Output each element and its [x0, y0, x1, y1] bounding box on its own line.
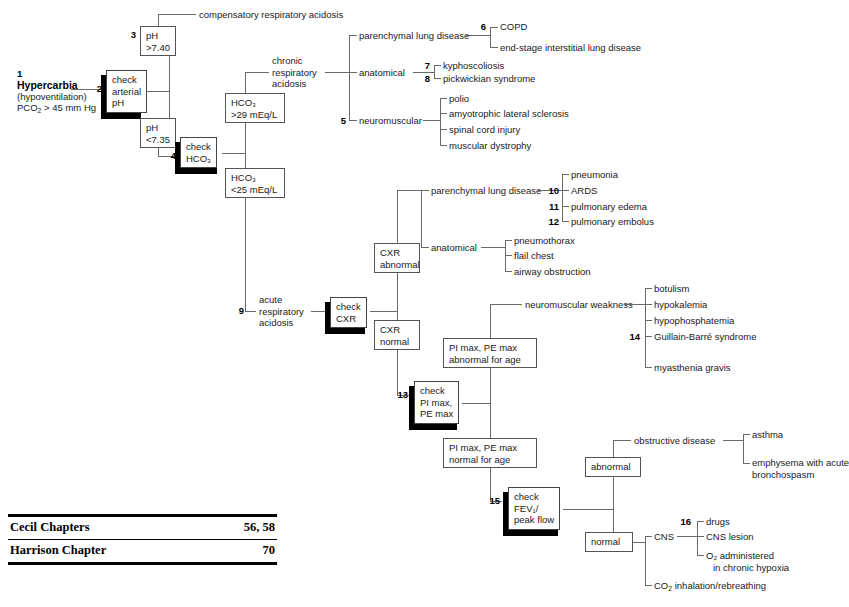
leaf-line: bronchospasm [752, 469, 849, 481]
leaf-botulism: botulism [654, 283, 689, 295]
table-row: Cecil Chapters 56, 58 [8, 517, 277, 539]
connector [349, 35, 350, 120]
action-face[interactable]: check HCO₃ [180, 137, 217, 168]
connector [434, 65, 435, 79]
leaf-pneumothorax: pneumothorax [514, 235, 575, 247]
connector [490, 47, 498, 48]
table-row-label: Cecil Chapters [10, 520, 90, 535]
action-check-arterial-ph[interactable]: check arterial pH [106, 70, 146, 114]
connector [440, 98, 441, 145]
table-row-label: Harrison Chapter [10, 543, 106, 558]
leaf-number-7: 7 [418, 60, 430, 71]
connector [490, 368, 491, 438]
table-row-value: 56, 58 [244, 520, 275, 535]
node-line: normal [591, 536, 627, 548]
action-number-13: 13 [392, 389, 408, 400]
leaf-o2-administered-in-chronic-hypoxia: O₂ administered in chronic hypoxia [706, 550, 789, 573]
connector [423, 120, 440, 121]
node-line: >7.40 [146, 42, 170, 54]
action-line: pH [112, 97, 141, 109]
action-check-fev1-peak-flow[interactable]: check FEV₁/ peak flow [508, 487, 563, 531]
connector [462, 403, 490, 404]
connector [645, 288, 652, 289]
node-line: HCO₃ [231, 97, 279, 109]
connector [505, 255, 512, 256]
action-line: peak flow [514, 514, 554, 526]
action-face[interactable]: check FEV₁/ peak flow [508, 487, 560, 530]
action-line: check [514, 491, 554, 503]
leaf-flail-chest: flail chest [514, 250, 554, 262]
action-line: check [420, 385, 453, 397]
connector [723, 440, 743, 441]
connector [562, 174, 569, 175]
connector [645, 336, 652, 337]
node-fev1-abnormal: abnormal [585, 457, 641, 477]
connector [743, 463, 750, 464]
root-subtitle: (hypoventilation) [17, 91, 96, 102]
action-line: CXR [336, 313, 361, 325]
action-check-pimax-pemax[interactable]: check PI max, PE max [414, 381, 462, 425]
label-compensatory-respiratory-acidosis: compensatory respiratory acidosis [199, 9, 343, 21]
label-acute-respiratory-acidosis: acute respiratory acidosis [259, 294, 311, 329]
connector [146, 91, 169, 92]
connector [677, 536, 697, 537]
action-face[interactable]: check arterial pH [106, 70, 147, 113]
node-line: >29 mEq/L [231, 109, 279, 121]
node-line: CXR [380, 247, 414, 259]
node-pimax-normal: PI max, PE max normal for age [443, 438, 537, 468]
leaf-number-16: 16 [675, 516, 691, 527]
action-check-hco3[interactable]: check HCO₃ [180, 137, 222, 169]
leaf-pickwickian-syndrome: pickwickian syndrome [443, 73, 535, 85]
leaf-pulmonary-embolus: pulmonary embolus [571, 216, 654, 228]
connector [490, 304, 522, 305]
action-face[interactable]: check PI max, PE max [414, 381, 459, 424]
node-ph-low: pH <7.35 [140, 118, 176, 148]
label-cns: CNS [654, 531, 674, 543]
node-line: HCO₃ [231, 172, 279, 184]
node-fev1-normal: normal [585, 532, 633, 552]
connector [245, 72, 269, 73]
leaf-guillain-barre-syndrome: Guillain-Barré syndrome [654, 331, 756, 343]
connector [440, 145, 447, 146]
connector [490, 27, 491, 48]
label-chronic-neuromuscular: neuromuscular [359, 115, 422, 127]
leaf-line: emphysema with acute [752, 457, 849, 469]
connector [645, 367, 652, 368]
leaf-myasthenia-gravis: myasthenia gravis [654, 362, 731, 374]
leaf-number-11: 11 [544, 201, 559, 212]
node-line: abnormal [591, 461, 635, 473]
node-hco3-low: HCO₃ <25 mEq/L [225, 168, 285, 198]
leaf-number-8: 8 [418, 73, 430, 84]
connector [743, 434, 744, 463]
action-line: check [336, 301, 361, 313]
connector [490, 27, 498, 28]
label-obstructive-disease: obstructive disease [634, 435, 715, 447]
leaf-hypophosphatemia: hypophosphatemia [654, 315, 734, 327]
node-line: <7.35 [146, 134, 170, 146]
connector [421, 190, 422, 247]
connector [158, 14, 159, 26]
node-line: abnormal [380, 259, 414, 271]
connector [481, 247, 505, 248]
connector [645, 536, 652, 537]
root-number: 1 [17, 68, 96, 79]
leaf-cns-lesion: CNS lesion [706, 531, 754, 543]
leaf-ards: ARDS [571, 185, 597, 197]
node-line: pH [146, 122, 170, 134]
action-check-cxr[interactable]: check CXR [330, 297, 370, 329]
node-line: CXR [380, 324, 414, 336]
connector [645, 585, 652, 586]
action-number-9: 9 [232, 305, 244, 316]
leaf-copd: COPD [500, 21, 527, 33]
connector [505, 271, 512, 272]
leaf-drugs: drugs [706, 516, 730, 528]
connector [325, 72, 349, 73]
action-face[interactable]: check CXR [330, 297, 367, 328]
leaf-hypokalemia: hypokalemia [654, 299, 707, 311]
node-cxr-normal: CXR normal [374, 320, 420, 350]
label-line: acute [259, 294, 311, 306]
leaf-number-6: 6 [474, 21, 486, 32]
leaf-line: O₂ administered [706, 550, 789, 562]
node-hco3-high: HCO₃ >29 mEq/L [225, 93, 285, 123]
leaf-polio: polio [449, 93, 469, 105]
